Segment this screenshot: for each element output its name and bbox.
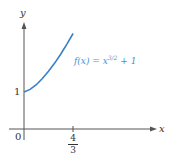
y-tick-label-1: 1 <box>14 87 20 97</box>
frac-numerator: 4 <box>70 133 76 143</box>
x-axis-arrow-icon <box>150 127 157 132</box>
function-curve <box>24 34 73 93</box>
frac-denominator: 3 <box>70 145 76 155</box>
x-axis-label: x <box>159 124 165 134</box>
function-label: f(x) = x3/2 + 1 <box>74 55 136 66</box>
origin-label: 0 <box>15 132 21 142</box>
x-tick-label-4-3: 4 3 <box>68 134 78 155</box>
plot-area <box>0 0 169 160</box>
y-axis-label: y <box>20 8 26 18</box>
y-axis-arrow-icon <box>22 22 27 29</box>
